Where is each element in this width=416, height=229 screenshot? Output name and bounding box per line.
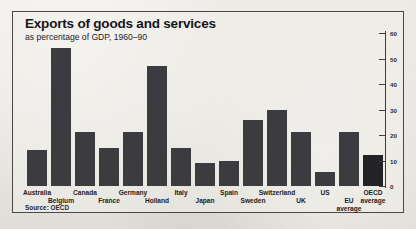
y-tick-mark <box>379 110 386 111</box>
x-axis-label: Holland <box>145 197 169 205</box>
x-axis-label: US <box>320 189 329 197</box>
y-tick-mark <box>379 135 386 136</box>
y-tick-label: 60 <box>390 30 397 37</box>
bar <box>339 132 359 186</box>
y-tick-label: 50 <box>390 55 397 62</box>
x-axis-label: Japan <box>195 197 214 205</box>
y-tick-label: 40 <box>390 81 397 88</box>
bar <box>123 132 143 186</box>
y-tick-label: 0 <box>390 183 393 190</box>
x-axis-label: Belgium <box>48 197 74 205</box>
bar <box>99 148 119 186</box>
chart-title: Exports of goods and services <box>25 16 216 31</box>
bar <box>147 66 167 186</box>
x-axis-label: Australia <box>23 189 51 197</box>
bar <box>51 48 71 186</box>
y-tick-mark <box>379 59 386 60</box>
y-tick-label: 30 <box>390 106 397 113</box>
y-tick-mark <box>379 33 386 34</box>
x-axis-label: OECDaverage <box>361 189 386 204</box>
x-axis-label: Switzerland <box>259 189 296 197</box>
x-axis-label: Canada <box>73 189 97 197</box>
y-tick-label: 10 <box>390 157 397 164</box>
bar <box>171 148 191 186</box>
bar <box>219 161 239 187</box>
bar <box>315 172 335 186</box>
y-tick-label: 20 <box>390 132 397 139</box>
bar <box>291 132 311 186</box>
x-axis-label: Sweden <box>241 197 266 205</box>
y-tick-mark <box>379 161 386 162</box>
plot-area <box>25 33 385 186</box>
source-note: Source: OECD <box>25 204 69 211</box>
bar <box>267 110 287 187</box>
x-axis-label: Spain <box>220 189 238 197</box>
x-axis-label: UK <box>296 197 306 205</box>
y-tick-mark <box>379 186 386 187</box>
bar <box>75 132 95 186</box>
y-tick-mark <box>379 84 386 85</box>
x-axis-label: Germany <box>119 189 148 197</box>
bar <box>195 163 215 186</box>
bar <box>243 120 263 186</box>
x-axis-label: Italy <box>174 189 187 197</box>
x-axis-label: France <box>98 197 120 205</box>
x-axis-label: EUaverage <box>337 197 362 212</box>
chart-screenshot: Exports of goods and services as percent… <box>0 0 416 229</box>
bar <box>27 150 47 186</box>
